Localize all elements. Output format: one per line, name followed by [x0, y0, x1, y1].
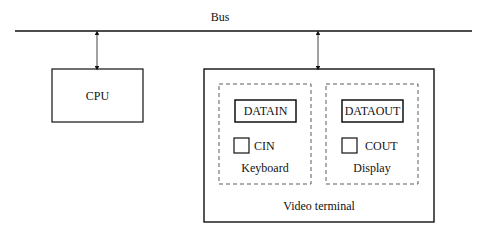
datain-label: DATAIN — [235, 104, 296, 118]
display-label: Display — [326, 161, 418, 175]
cout-flag — [342, 138, 357, 153]
dataout-label: DATAOUT — [342, 104, 403, 118]
cin-label: CIN — [254, 139, 275, 153]
cpu-label: CPU — [52, 89, 143, 103]
keyboard-label: Keyboard — [219, 161, 311, 175]
video-terminal-label: Video terminal — [204, 199, 434, 213]
cin-flag — [234, 138, 249, 153]
cout-label: COUT — [365, 139, 398, 153]
bus-label: Bus — [205, 10, 235, 24]
